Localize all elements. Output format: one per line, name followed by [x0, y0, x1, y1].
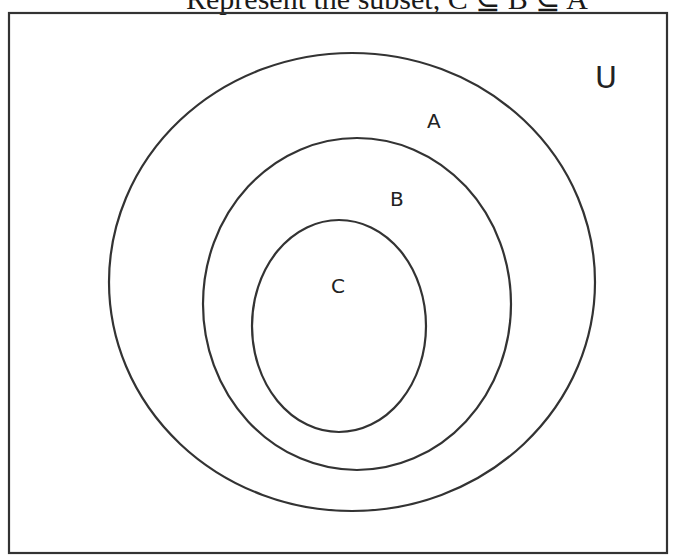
universe-label: U [595, 63, 617, 93]
set-a-label: A [427, 111, 441, 131]
set-c-label: C [331, 276, 345, 296]
set-b-ellipse [203, 138, 511, 470]
set-b-label: B [390, 189, 404, 209]
set-a-ellipse [109, 53, 595, 511]
set-c-ellipse [252, 220, 426, 432]
